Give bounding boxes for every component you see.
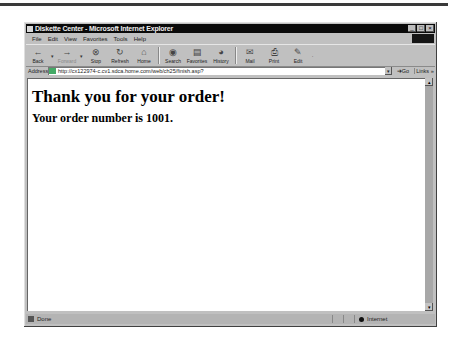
- home-button[interactable]: ⌂ Home: [132, 48, 156, 64]
- history-button[interactable]: ◕ History: [209, 48, 233, 64]
- menu-edit[interactable]: Edit: [48, 36, 58, 42]
- back-arrow-icon: ←: [34, 48, 43, 57]
- toolbar-more-icon[interactable]: ·: [310, 53, 315, 59]
- page-top-rule: [0, 3, 448, 6]
- window-title: Diskette Center - Microsoft Internet Exp…: [35, 24, 408, 33]
- forward-button[interactable]: → Forward: [55, 48, 79, 64]
- forward-arrow-icon: →: [63, 48, 72, 57]
- edit-icon: ✎: [294, 48, 303, 57]
- standard-toolbar: ← Back ▾ → Forward ▾ ⊗ Stop ↻ Refresh ⌂ …: [26, 44, 435, 67]
- menu-tools[interactable]: Tools: [114, 36, 128, 42]
- history-icon: ◕: [217, 48, 226, 57]
- mail-button[interactable]: ✉ Mail: [238, 48, 262, 64]
- address-dropdown-icon[interactable]: ▾: [385, 67, 392, 75]
- ie-throbber-logo: [412, 34, 434, 43]
- address-input[interactable]: http://cx122974-c.cv1.sdca.home.com/web/…: [48, 67, 392, 75]
- order-number-text: Your order number is 1001.: [32, 111, 173, 126]
- toolbar-separator: [235, 47, 236, 64]
- links-button[interactable]: Links »: [414, 68, 435, 74]
- close-button[interactable]: ×: [426, 25, 434, 32]
- menu-bar: File Edit View Favorites Tools Help: [26, 34, 435, 43]
- favorites-folder-icon: ▤: [193, 48, 202, 57]
- back-button[interactable]: ← Back: [26, 48, 50, 64]
- home-icon: ⌂: [140, 48, 149, 57]
- title-bar: Diskette Center - Microsoft Internet Exp…: [26, 24, 435, 33]
- go-button[interactable]: ➜Go: [392, 68, 414, 74]
- security-zone: Internet: [354, 315, 435, 323]
- vertical-scrollbar[interactable]: ▴ ▾: [425, 78, 433, 311]
- search-icon: ◉: [169, 48, 178, 57]
- edit-button[interactable]: ✎ Edit: [286, 48, 310, 64]
- minimize-button[interactable]: _: [408, 25, 416, 32]
- ie-app-icon: [27, 26, 33, 32]
- print-icon: ⎙: [270, 48, 279, 57]
- menu-help[interactable]: Help: [134, 36, 146, 42]
- maximize-button[interactable]: □: [417, 25, 425, 32]
- status-bar: Done Internet: [26, 314, 435, 324]
- print-button[interactable]: ⎙ Print: [262, 48, 286, 64]
- stop-icon: ⊗: [92, 48, 101, 57]
- browser-window: Diskette Center - Microsoft Internet Exp…: [24, 22, 437, 327]
- stop-button[interactable]: ⊗ Stop: [84, 48, 108, 64]
- scroll-down-icon[interactable]: ▾: [425, 303, 433, 311]
- page-icon: [49, 68, 56, 74]
- status-pane: [343, 315, 354, 323]
- status-page-icon: [28, 316, 34, 322]
- address-url[interactable]: http://cx122974-c.cv1.sdca.home.com/web/…: [58, 68, 204, 74]
- globe-icon: [359, 317, 364, 322]
- menu-view[interactable]: View: [64, 36, 77, 42]
- refresh-icon: ↻: [116, 48, 125, 57]
- status-pane: [332, 315, 343, 323]
- status-text: Done: [37, 316, 332, 322]
- search-button[interactable]: ◉ Search: [161, 48, 185, 64]
- refresh-button[interactable]: ↻ Refresh: [108, 48, 132, 64]
- scroll-up-icon[interactable]: ▴: [425, 78, 433, 86]
- menu-file[interactable]: File: [32, 36, 42, 42]
- page-heading: Thank you for your order!: [32, 87, 225, 107]
- mail-icon: ✉: [246, 48, 255, 57]
- address-label: Address: [26, 68, 48, 74]
- address-bar: Address http://cx122974-c.cv1.sdca.home.…: [26, 66, 435, 76]
- menu-favorites[interactable]: Favorites: [83, 36, 108, 42]
- favorites-button[interactable]: ▤ Favorites: [185, 48, 209, 64]
- page-content: Thank you for your order! Your order num…: [27, 78, 425, 311]
- toolbar-separator: [158, 47, 159, 64]
